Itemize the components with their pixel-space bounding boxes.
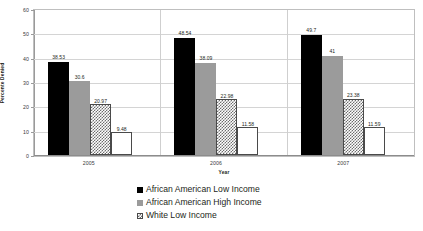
- bar-value-label: 38.09: [200, 55, 213, 61]
- legend-swatch-checkered: [137, 213, 143, 219]
- bar-group: 38.5330.620.979.48: [35, 10, 161, 155]
- figure-caption: [6, 221, 423, 231]
- y-tick-mark: [31, 59, 34, 60]
- x-tick-label: 2005: [33, 160, 160, 166]
- bar-group-bars: 48.5438.0922.9811.58: [174, 10, 258, 155]
- x-tick-label: 2006: [160, 160, 287, 166]
- bar[interactable]: 20.97: [90, 104, 111, 155]
- y-tick-mark: [31, 83, 34, 84]
- y-tick-mark: [31, 156, 34, 157]
- bar-slot: 9.48: [111, 10, 132, 155]
- legend-item[interactable]: African American Low Income: [137, 183, 287, 196]
- x-axis-line: [34, 155, 414, 156]
- y-tick-mark: [31, 34, 34, 35]
- legend-label: African American Low Income: [146, 185, 260, 194]
- bar[interactable]: 38.09: [195, 63, 216, 155]
- bar-value-label: 41: [329, 48, 335, 54]
- bar-slot: 20.97: [90, 10, 111, 155]
- bar-value-label: 30.6: [75, 74, 85, 80]
- x-axis-title: Year: [33, 170, 415, 175]
- plot-area: 0102030405060 38.5330.620.979.4848.5438.…: [33, 9, 415, 157]
- bar-slot: 22.98: [216, 10, 237, 155]
- y-axis-title: Percente Denied: [0, 63, 5, 104]
- legend-swatch-solid-black: [137, 187, 143, 193]
- bar-value-label: 48.54: [179, 30, 192, 36]
- bar-slot: 48.54: [174, 10, 195, 155]
- bar-slot: 38.53: [48, 10, 69, 155]
- bar-slot: 49.7: [301, 10, 322, 155]
- bar[interactable]: 22.98: [216, 99, 237, 155]
- legend-label: African American High Income: [146, 198, 262, 207]
- bar-group: 49.74123.3811.59: [288, 10, 414, 155]
- bar-group-bars: 38.5330.620.979.48: [48, 10, 132, 155]
- bar-value-label: 38.53: [52, 54, 65, 60]
- bar-value-label: 49.7: [306, 27, 316, 33]
- x-tick-label: 2007: [288, 160, 415, 166]
- legend-swatch-solid-gray: [137, 200, 143, 206]
- bar-groups: 38.5330.620.979.4848.5438.0922.9811.5849…: [35, 10, 414, 155]
- bar-value-label: 11.58: [242, 121, 254, 127]
- bar[interactable]: 11.58: [237, 127, 258, 155]
- bar[interactable]: 30.6: [69, 81, 90, 155]
- bar[interactable]: 11.59: [364, 127, 385, 155]
- y-tick-label: 0: [26, 153, 29, 159]
- y-tick-label: 10: [23, 129, 29, 135]
- y-tick-label: 50: [23, 31, 29, 37]
- bar-slot: 30.6: [69, 10, 90, 155]
- bar[interactable]: 23.38: [343, 99, 364, 156]
- y-tick-mark: [31, 10, 34, 11]
- bar-value-label: 9.48: [117, 126, 127, 132]
- bar-slot: 11.59: [364, 10, 385, 155]
- legend-label: White Low Income: [146, 211, 217, 220]
- bar-group: 48.5438.0922.9811.58: [161, 10, 287, 155]
- bar-value-label: 11.59: [368, 121, 380, 127]
- x-axis-ticks: 200520062007: [33, 160, 415, 166]
- bar-value-label: 23.38: [347, 92, 360, 98]
- y-tick-label: 20: [23, 104, 29, 110]
- y-tick-label: 40: [23, 56, 29, 62]
- bar-group-bars: 49.74123.3811.59: [301, 10, 385, 155]
- bar-value-label: 22.98: [221, 93, 234, 99]
- bar[interactable]: 41: [322, 56, 343, 155]
- bar-slot: 41: [322, 10, 343, 155]
- bar-value-label: 20.97: [94, 98, 107, 104]
- bar[interactable]: 9.48: [111, 132, 132, 155]
- bar-slot: 38.09: [195, 10, 216, 155]
- y-tick-mark: [31, 132, 34, 133]
- y-tick-mark: [31, 107, 34, 108]
- bar[interactable]: 48.54: [174, 38, 195, 155]
- chart-figure: Percente Denied 0102030405060 38.5330.62…: [0, 0, 423, 231]
- bar[interactable]: 38.53: [48, 62, 69, 155]
- bar-slot: 11.58: [237, 10, 258, 155]
- y-tick-label: 30: [23, 80, 29, 86]
- legend-item[interactable]: African American High Income: [137, 196, 287, 209]
- bar[interactable]: 49.7: [301, 35, 322, 155]
- bar-slot: 23.38: [343, 10, 364, 155]
- y-tick-label: 60: [23, 7, 29, 13]
- chart-legend: African American Low IncomeAfrican Ameri…: [0, 183, 423, 222]
